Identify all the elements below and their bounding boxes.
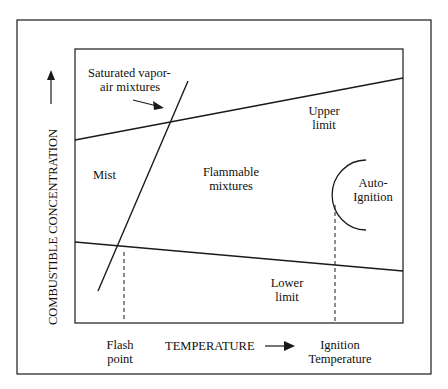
saturated-label-line1: Saturated vapor- xyxy=(88,66,171,80)
ignition-temperature-label-line1: Ignition xyxy=(320,338,360,352)
saturated-label-line2: air mixtures xyxy=(100,80,160,94)
flammability-diagram: COMBUSTIBLE CONCENTRATION TEMPERATURE Sa… xyxy=(0,0,448,389)
flammable-label-line1: Flammable xyxy=(203,165,260,179)
saturated-vapor-line xyxy=(98,81,188,291)
saturated-pointer-arrowhead-icon xyxy=(153,101,164,110)
x-axis-arrowhead-icon xyxy=(284,341,295,351)
auto-ignition-label-line1: Auto- xyxy=(358,176,387,190)
lower-limit-label-line2: limit xyxy=(275,290,299,304)
y-axis-arrowhead-icon xyxy=(47,70,55,80)
y-axis-label: COMBUSTIBLE CONCENTRATION xyxy=(46,129,60,325)
x-axis-label: TEMPERATURE xyxy=(165,339,255,353)
flash-point-label-line2: point xyxy=(107,352,133,366)
auto-ignition-label-line2: Ignition xyxy=(353,190,393,204)
mist-label: Mist xyxy=(93,168,116,182)
flash-point-label-line1: Flash xyxy=(106,338,134,352)
lower-limit-label-line1: Lower xyxy=(271,276,304,290)
upper-limit-label-line1: Upper xyxy=(308,104,340,118)
upper-limit-label-line2: limit xyxy=(312,118,336,132)
ignition-temperature-label-line2: Temperature xyxy=(309,352,372,366)
flammable-label-line2: mixtures xyxy=(209,179,253,193)
